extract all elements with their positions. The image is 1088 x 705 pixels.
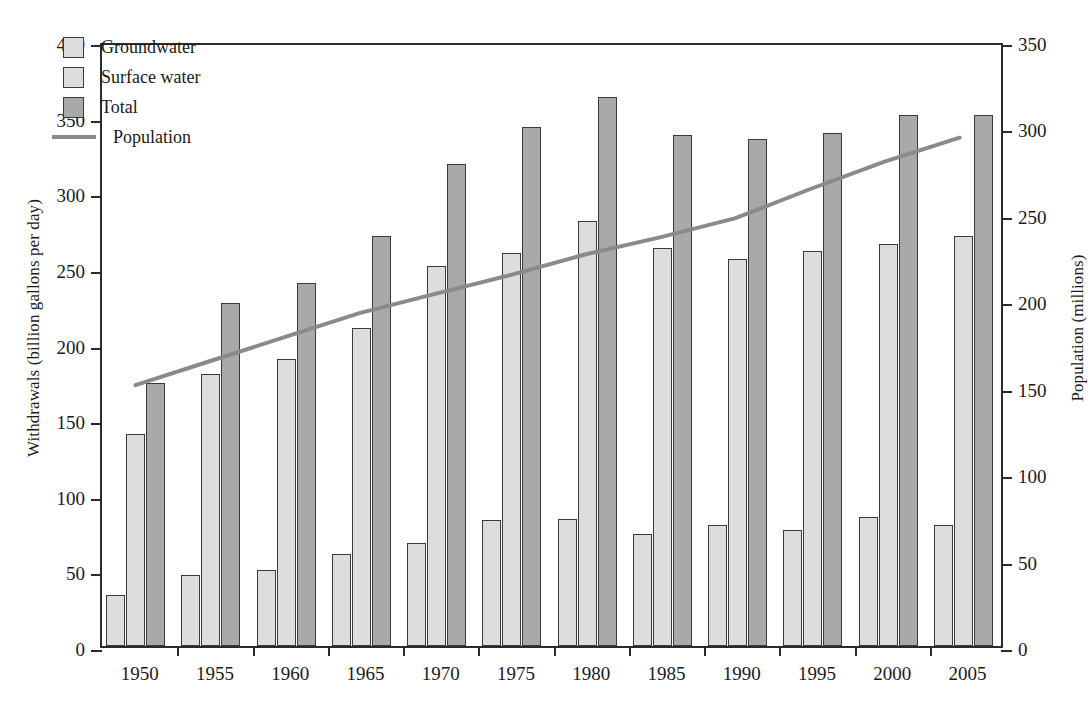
y-axis-tick xyxy=(91,574,102,576)
x-axis-tick-label: 1955 xyxy=(196,663,234,685)
x-axis-tick xyxy=(554,646,556,656)
x-axis-tick-label: 1950 xyxy=(121,663,159,685)
x-axis-tick-label: 2000 xyxy=(873,663,911,685)
x-axis-tick xyxy=(177,646,179,656)
secondary-y-axis-tick-label: 150 xyxy=(1018,379,1047,401)
x-axis-tick xyxy=(855,646,857,656)
legend-item: Population xyxy=(63,122,200,152)
plot-area: 050100150200250300350400 050100150200250… xyxy=(100,43,1003,648)
secondary-y-axis-tick xyxy=(1001,304,1012,306)
legend-item: Total xyxy=(63,92,200,122)
secondary-y-axis-title: Population (millions) xyxy=(1068,28,1088,628)
x-axis-tick xyxy=(328,646,330,656)
x-axis-tick xyxy=(629,646,631,656)
x-axis-tick-label: 1995 xyxy=(798,663,836,685)
x-axis-tick-label: 1990 xyxy=(723,663,761,685)
secondary-y-axis-tick-label: 350 xyxy=(1018,34,1047,56)
secondary-y-axis-tick xyxy=(1001,564,1012,566)
legend-item: Surface water xyxy=(63,62,200,92)
secondary-y-axis-tick-label: 200 xyxy=(1018,293,1047,315)
y-axis-tick xyxy=(91,196,102,198)
y-axis-tick xyxy=(91,272,102,274)
legend-line-swatch xyxy=(52,135,96,139)
secondary-y-axis-tick xyxy=(1001,391,1012,393)
legend-item-label: Surface water xyxy=(101,67,200,88)
y-axis-tick-label: 0 xyxy=(76,639,86,661)
legend-color-swatch xyxy=(63,67,84,88)
y-axis-title: Withdrawals (billion gallons per day) xyxy=(24,28,44,628)
secondary-y-axis-tick-label: 300 xyxy=(1018,120,1047,142)
secondary-y-axis-tick xyxy=(1001,45,1012,47)
legend-item-label: Groundwater xyxy=(101,37,196,58)
y-axis-tick-label: 300 xyxy=(57,185,86,207)
chart-legend: GroundwaterSurface waterTotalPopulation xyxy=(63,32,200,152)
y-axis-tick xyxy=(91,348,102,350)
secondary-y-axis-tick xyxy=(1001,218,1012,220)
x-axis-tick xyxy=(253,646,255,656)
population-line-path xyxy=(135,138,959,385)
y-axis-tick-label: 250 xyxy=(57,260,86,282)
y-axis-tick xyxy=(91,423,102,425)
legend-item-label: Total xyxy=(101,97,138,118)
y-axis-tick-label: 100 xyxy=(57,487,86,509)
x-axis-tick xyxy=(930,646,932,656)
legend-color-swatch xyxy=(63,37,84,58)
legend-item-label: Population xyxy=(113,127,191,148)
population-line-series xyxy=(102,45,1001,646)
legend-color-swatch xyxy=(63,97,84,118)
secondary-y-axis-tick-label: 250 xyxy=(1018,206,1047,228)
x-axis-tick xyxy=(403,646,405,656)
x-axis-tick-label: 1975 xyxy=(497,663,535,685)
secondary-y-axis-tick-label: 0 xyxy=(1018,639,1028,661)
y-axis-tick xyxy=(91,499,102,501)
secondary-y-axis-tick xyxy=(1001,650,1012,652)
secondary-y-axis-tick-label: 50 xyxy=(1018,552,1037,574)
x-axis-tick xyxy=(779,646,781,656)
y-axis-tick-label: 50 xyxy=(66,563,85,585)
legend-item: Groundwater xyxy=(63,32,200,62)
x-axis-tick xyxy=(478,646,480,656)
x-axis-tick xyxy=(704,646,706,656)
y-axis-tick-label: 200 xyxy=(57,336,86,358)
secondary-y-axis-tick-label: 100 xyxy=(1018,466,1047,488)
x-axis-tick-label: 1970 xyxy=(422,663,460,685)
secondary-y-axis-tick xyxy=(1001,131,1012,133)
y-axis-tick xyxy=(91,650,102,652)
x-axis-tick-label: 1960 xyxy=(271,663,309,685)
x-axis-tick-label: 1965 xyxy=(346,663,384,685)
y-axis-tick-label: 150 xyxy=(57,412,86,434)
x-axis-tick-label: 2005 xyxy=(948,663,986,685)
secondary-y-axis-tick xyxy=(1001,477,1012,479)
x-axis-tick-label: 1980 xyxy=(572,663,610,685)
x-axis-tick-label: 1985 xyxy=(647,663,685,685)
